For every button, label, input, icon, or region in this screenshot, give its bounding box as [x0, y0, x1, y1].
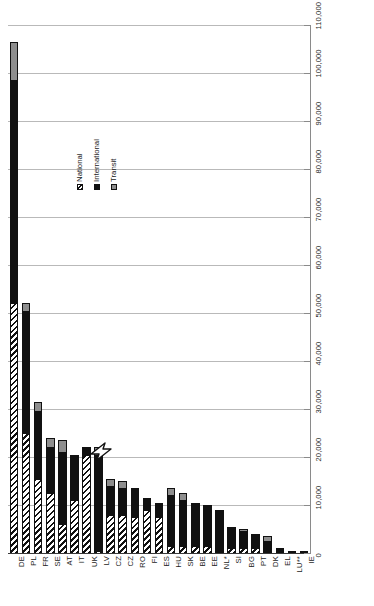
bar-segment-national	[106, 515, 115, 553]
bar-segment-national	[203, 546, 212, 553]
bar-segment-national	[58, 524, 67, 553]
bar-segment-national	[239, 548, 248, 553]
bar-segment-national	[251, 548, 260, 553]
value-axis-tick-label: 100,000	[314, 49, 323, 77]
legend-label: National	[75, 153, 84, 182]
value-axis-tick-label: 50,000	[314, 294, 323, 318]
bar-segment-national	[82, 455, 91, 553]
bar-segment-international	[276, 548, 285, 553]
bar-be[interactable]	[191, 503, 200, 553]
bar-at[interactable]	[58, 440, 67, 553]
bar-segment-national	[131, 517, 140, 553]
bar-it[interactable]	[70, 455, 79, 553]
category-label-nl: NL*	[222, 556, 231, 569]
category-label-fr: FR	[41, 556, 50, 567]
bar-segment-national	[179, 546, 188, 553]
bar-segment-national	[167, 546, 176, 553]
category-label-pt: PT	[259, 556, 268, 566]
bar-pt[interactable]	[251, 534, 260, 553]
category-label-cz: CZ	[126, 556, 135, 567]
bar-segment-international	[94, 455, 103, 551]
category-label-ee: EE	[210, 556, 219, 567]
category-label-si: SI	[234, 556, 243, 564]
bar-segment-international	[58, 452, 67, 524]
bar-lv[interactable]	[94, 447, 103, 553]
bar-uk[interactable]	[82, 447, 91, 553]
bar-segment-international	[167, 495, 176, 545]
legend-entry-international[interactable]: International	[92, 139, 101, 190]
category-label-fi: FI	[150, 556, 159, 563]
chart-legend: NationalInternationalTransit	[84, 128, 136, 190]
bar-segment-national	[46, 493, 55, 553]
bar-segment-national	[70, 500, 79, 553]
bar-segment-national	[143, 510, 152, 553]
bar-ro[interactable]	[131, 488, 140, 553]
bar-es[interactable]	[155, 503, 164, 553]
bar-segment-international	[131, 488, 140, 517]
bar-lu[interactable]	[288, 551, 297, 553]
bar-segment-transit	[118, 481, 127, 488]
bar-segment-international	[34, 411, 43, 478]
bar-segment-national	[34, 479, 43, 553]
category-label-ro: RO	[138, 556, 147, 568]
bar-segment-transit	[167, 488, 176, 495]
bar-ee[interactable]	[203, 505, 212, 553]
bar-segment-international	[239, 531, 248, 548]
bar-segment-international	[203, 505, 212, 546]
bar-hu[interactable]	[167, 488, 176, 553]
bar-segment-international	[143, 498, 152, 510]
value-axis-tick-label: 30,000	[314, 390, 323, 414]
legend-entry-national[interactable]: National	[75, 153, 84, 190]
category-label-es: ES	[162, 556, 171, 567]
bar-segment-international	[22, 311, 31, 433]
category-label-cz: CZ	[114, 556, 123, 567]
bar-segment-national	[227, 548, 236, 553]
legend-entry-transit[interactable]: Transit	[109, 158, 118, 190]
category-label-lu: LU**	[295, 556, 304, 572]
value-axis-tick-label: 40,000	[314, 342, 323, 366]
bar-segment-international	[118, 488, 127, 514]
value-axis-tick-label: 60,000	[314, 246, 323, 270]
bar-segment-transit	[58, 440, 67, 452]
bar-sk[interactable]	[179, 493, 188, 553]
bar-segment-international	[106, 486, 115, 515]
bar-cz[interactable]	[118, 481, 127, 553]
bar-ie[interactable]	[300, 551, 309, 553]
category-label-bg: BG	[247, 556, 256, 567]
bar-si[interactable]	[227, 527, 236, 553]
legend-label: Transit	[109, 158, 118, 182]
bar-nl[interactable]	[215, 510, 224, 553]
category-label-it: IT	[77, 556, 86, 563]
bar-segment-transit	[106, 479, 115, 486]
bar-segment-international	[155, 503, 164, 517]
value-axis-tick-label: 80,000	[314, 150, 323, 174]
gray-swatch	[111, 184, 117, 190]
bar-cz[interactable]	[106, 479, 115, 553]
category-axis-tick-labels: DEPLFRSEATITUKLVCZCZROFIESHUSKBEEENL*SIB…	[8, 556, 310, 606]
bar-fr[interactable]	[34, 402, 43, 553]
bar-pl[interactable]	[22, 303, 31, 553]
bar-dk[interactable]	[263, 536, 272, 553]
black-swatch	[94, 184, 100, 190]
bar-segment-international	[288, 551, 297, 553]
bar-el[interactable]	[276, 548, 285, 553]
bar-segment-international	[179, 500, 188, 546]
bar-segment-international	[300, 551, 309, 553]
bar-fi[interactable]	[143, 498, 152, 553]
category-label-de: DE	[17, 556, 26, 567]
bar-de[interactable]	[10, 42, 19, 553]
bar-segment-national	[22, 433, 31, 553]
value-axis-tick-label: 90,000	[314, 102, 323, 126]
bar-segment-transit	[46, 438, 55, 448]
value-axis-tick-label: 70,000	[314, 198, 323, 222]
bar-segment-transit	[34, 402, 43, 412]
value-axis-tick-label: 20,000	[314, 438, 323, 462]
category-label-sk: SK	[186, 556, 195, 567]
bar-segment-international	[251, 534, 260, 548]
bar-bg[interactable]	[239, 529, 248, 553]
category-label-uk: UK	[90, 556, 99, 567]
bar-segment-international	[215, 510, 224, 553]
hatch-swatch	[77, 184, 83, 190]
category-label-be: BE	[198, 556, 207, 567]
bar-se[interactable]	[46, 438, 55, 553]
